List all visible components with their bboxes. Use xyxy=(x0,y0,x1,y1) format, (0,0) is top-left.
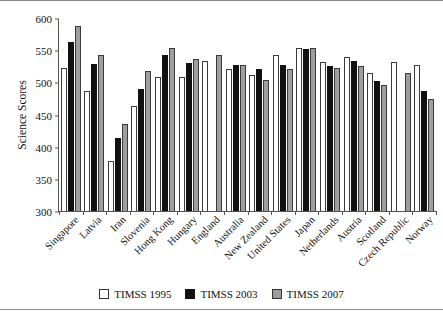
y-axis-tick-label: 500 xyxy=(5,77,59,89)
bar-japan-timss-2003 xyxy=(303,49,309,211)
bar-netherlands-timss-1995 xyxy=(320,62,326,211)
bar-group xyxy=(130,19,154,211)
bar-iran-timss-2003 xyxy=(115,138,121,211)
bar-england-timss-2007 xyxy=(216,55,222,211)
bar-scotland-timss-2003 xyxy=(374,81,380,211)
bar-group xyxy=(59,19,83,211)
bar-austria-timss-2007 xyxy=(358,66,364,211)
bar-japan-timss-1995 xyxy=(296,48,302,211)
bar-hungary-timss-2007 xyxy=(193,59,199,211)
bar-australia-timss-2003 xyxy=(233,65,239,211)
science-scores-bar-chart: Science Scores 300350400450500550600 Sin… xyxy=(0,0,443,325)
bar-netherlands-timss-2007 xyxy=(334,68,340,211)
bar-austria-timss-2003 xyxy=(351,61,357,211)
y-axis-tick-label: 400 xyxy=(5,142,59,154)
bar-hong-kong-timss-2003 xyxy=(162,55,168,211)
bar-norway-timss-2007 xyxy=(428,99,434,211)
bar-united-states-timss-2003 xyxy=(280,65,286,211)
bar-latvia-timss-1995 xyxy=(84,91,90,211)
y-axis-tick-label: 600 xyxy=(5,13,59,25)
bar-latvia-timss-2003 xyxy=(91,64,97,211)
bar-latvia-timss-2007 xyxy=(98,55,104,211)
bar-group xyxy=(342,19,366,211)
bar-new-zealand-timss-2003 xyxy=(256,69,262,211)
bar-hong-kong-timss-1995 xyxy=(155,77,161,211)
bar-hungary-timss-1995 xyxy=(179,77,185,211)
y-axis-tick-label: 350 xyxy=(5,174,59,186)
bar-group xyxy=(200,19,224,211)
bar-netherlands-timss-2003 xyxy=(327,66,333,211)
bar-australia-timss-2007 xyxy=(240,65,246,211)
legend-item-timss-2003[interactable]: TIMSS 2003 xyxy=(185,288,257,300)
bar-groups xyxy=(59,19,436,211)
bar-united-states-timss-2007 xyxy=(287,69,293,211)
x-axis-label-latvia: Latvia xyxy=(77,214,104,241)
bar-group xyxy=(224,19,248,211)
bar-new-zealand-timss-1995 xyxy=(249,75,255,211)
chart-legend: TIMSS 1995TIMSS 2003TIMSS 2007 xyxy=(0,288,443,300)
bar-united-states-timss-1995 xyxy=(273,55,279,211)
bar-group xyxy=(271,19,295,211)
bar-australia-timss-1995 xyxy=(226,69,232,211)
bar-group xyxy=(83,19,107,211)
figure-top-rule xyxy=(0,0,443,1)
bar-group xyxy=(318,19,342,211)
bar-japan-timss-2007 xyxy=(310,48,316,211)
bar-iran-timss-1995 xyxy=(108,161,114,211)
bar-england-timss-1995 xyxy=(202,61,208,211)
bar-scotland-timss-2007 xyxy=(381,85,387,211)
legend-item-label: TIMSS 2007 xyxy=(287,288,344,300)
bar-scotland-timss-1995 xyxy=(367,73,373,211)
bar-group xyxy=(389,19,413,211)
bar-norway-timss-2003 xyxy=(421,91,427,211)
bar-slovenia-timss-2007 xyxy=(145,71,151,211)
open-square-icon xyxy=(99,289,109,299)
legend-item-timss-1995[interactable]: TIMSS 1995 xyxy=(99,288,171,300)
y-axis-tick-label: 300 xyxy=(5,206,59,218)
x-axis-category-labels: SingaporeLatviaIranSloveniaHong KongHung… xyxy=(58,214,436,284)
y-axis-tick-label: 550 xyxy=(5,45,59,57)
bar-group xyxy=(365,19,389,211)
bar-group xyxy=(295,19,319,211)
bar-singapore-timss-2003 xyxy=(68,42,74,211)
y-axis-tick-label: 450 xyxy=(5,110,59,122)
bar-slovenia-timss-1995 xyxy=(131,106,137,211)
bar-hong-kong-timss-2007 xyxy=(169,48,175,211)
bar-iran-timss-2007 xyxy=(122,124,128,211)
bar-group xyxy=(248,19,272,211)
bar-austria-timss-1995 xyxy=(344,57,350,211)
filled-gray-square-icon xyxy=(272,289,282,299)
bar-singapore-timss-1995 xyxy=(61,68,67,211)
x-axis-tick-mark xyxy=(436,211,437,215)
x-axis-label-iran: Iran xyxy=(108,214,128,234)
bar-czech-republic-timss-2007 xyxy=(405,73,411,211)
legend-item-label: TIMSS 1995 xyxy=(114,288,171,300)
plot-area: 300350400450500550600 xyxy=(58,19,436,212)
filled-black-square-icon xyxy=(185,289,195,299)
bar-group xyxy=(177,19,201,211)
bar-group xyxy=(106,19,130,211)
bar-hungary-timss-2003 xyxy=(186,63,192,211)
legend-item-label: TIMSS 2003 xyxy=(200,288,257,300)
legend-item-timss-2007[interactable]: TIMSS 2007 xyxy=(272,288,344,300)
bar-group xyxy=(412,19,436,211)
x-axis-label-singapore: Singapore xyxy=(43,214,81,252)
bar-slovenia-timss-2003 xyxy=(138,89,144,211)
figure-bottom-rule xyxy=(0,309,443,310)
bar-czech-republic-timss-1995 xyxy=(391,62,397,211)
bar-singapore-timss-2007 xyxy=(75,26,81,211)
bar-norway-timss-1995 xyxy=(414,65,420,211)
bar-group xyxy=(153,19,177,211)
bar-new-zealand-timss-2007 xyxy=(263,80,269,211)
